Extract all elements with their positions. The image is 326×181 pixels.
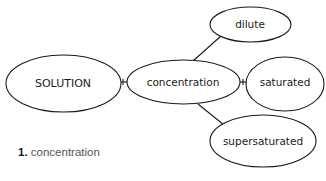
edge-concentration-supersaturated bbox=[198, 104, 224, 125]
node-label-solution: SOLUTION bbox=[35, 77, 91, 90]
question-caption: 1. concentration bbox=[18, 146, 100, 158]
node-label-dilute: dilute bbox=[235, 18, 265, 30]
node-label-supersaturated: supersaturated bbox=[223, 135, 303, 147]
edge-concentration-dilute bbox=[193, 36, 221, 61]
node-label-saturated: saturated bbox=[260, 76, 311, 88]
question-text: concentration bbox=[31, 146, 100, 158]
question-number: 1. bbox=[18, 146, 28, 158]
node-label-concentration: concentration bbox=[147, 76, 220, 88]
